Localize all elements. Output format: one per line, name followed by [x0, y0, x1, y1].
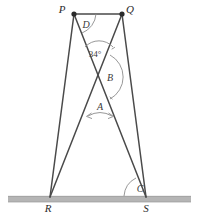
vertex-label-R: R	[44, 202, 52, 214]
ground-band	[8, 196, 191, 202]
segment-QR	[50, 14, 122, 197]
angle-arc-C	[124, 178, 136, 196]
angle-label-A: A	[96, 101, 104, 112]
segment-PS	[74, 14, 146, 197]
vertex-label-S: S	[143, 202, 149, 214]
geometry-figure: P Q R S D 34° B A C	[0, 0, 199, 220]
angle-arc-34-tick	[112, 47, 115, 49]
angle-label-B: B	[107, 72, 113, 83]
angle-label-34: 34°	[89, 49, 102, 59]
figure-canvas: P Q R S D 34° B A C	[0, 0, 199, 220]
ground-line-group	[8, 196, 191, 202]
vertex-label-Q: Q	[126, 3, 134, 15]
vertex-dot-Q	[119, 11, 124, 16]
vertex-dot-P	[71, 11, 76, 16]
segment-QS	[122, 14, 146, 197]
angle-label-C: C	[137, 183, 144, 194]
vertex-label-P: P	[58, 3, 66, 15]
angle-label-D: D	[81, 19, 90, 30]
segment-PR	[50, 14, 74, 197]
